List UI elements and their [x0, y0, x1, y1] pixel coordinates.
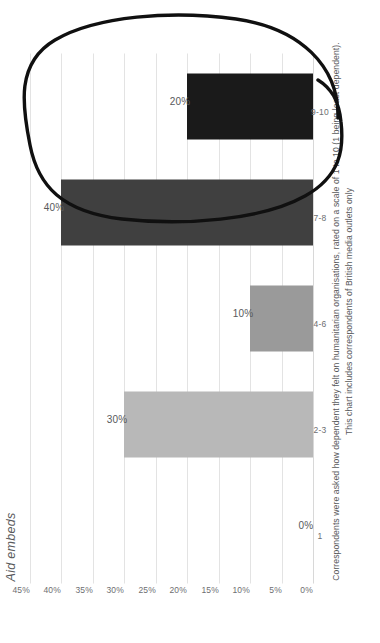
category-axis-label: 4-6 — [314, 318, 327, 328]
value-axis-tick-label: 40% — [44, 584, 62, 594]
bar-value-label: 20% — [170, 95, 191, 106]
gridline — [61, 53, 62, 583]
gridline — [30, 53, 31, 583]
value-axis-tick-label: 0% — [300, 584, 313, 594]
bar — [187, 73, 313, 139]
bar-value-label: 0% — [299, 519, 314, 530]
plot-area: 0%5%10%15%20%25%30%35%40%45% 0%30%10%40%… — [30, 53, 313, 583]
value-axis-tick-label: 15% — [201, 584, 219, 594]
footnote-line-2: This chart includes correspondents of Br… — [343, 31, 356, 591]
footnote-line-1: Correspondents were asked how dependent … — [330, 31, 343, 591]
value-axis-tick-label: 5% — [269, 584, 282, 594]
category-axis-label: 9-10 — [311, 106, 329, 116]
chart-title: Aid embeds — [4, 512, 18, 581]
bar-value-label: 10% — [233, 307, 254, 318]
category-axis-label: 2-3 — [314, 424, 327, 434]
value-axis-tick-label: 25% — [138, 584, 156, 594]
gridline — [93, 53, 94, 583]
value-axis-tick-label: 45% — [12, 584, 30, 594]
category-axis-label: 7-8 — [314, 212, 327, 222]
value-axis-tick-label: 30% — [107, 584, 125, 594]
gridline — [124, 53, 125, 583]
category-axis-label: 1 — [318, 530, 323, 540]
bar — [61, 179, 313, 245]
value-axis-tick-label: 35% — [75, 584, 93, 594]
bar — [124, 391, 313, 457]
value-axis-tick-label: 20% — [170, 584, 188, 594]
bar-value-label: 30% — [107, 413, 128, 424]
footnote-block: Correspondents were asked how dependent … — [330, 31, 356, 591]
gridline — [156, 53, 157, 583]
bar — [250, 285, 313, 351]
value-axis-tick-label: 10% — [232, 584, 250, 594]
chart-canvas: Aid embeds 0%5%10%15%20%25%30%35%40%45% … — [0, 0, 380, 643]
bar-value-label: 40% — [44, 201, 65, 212]
